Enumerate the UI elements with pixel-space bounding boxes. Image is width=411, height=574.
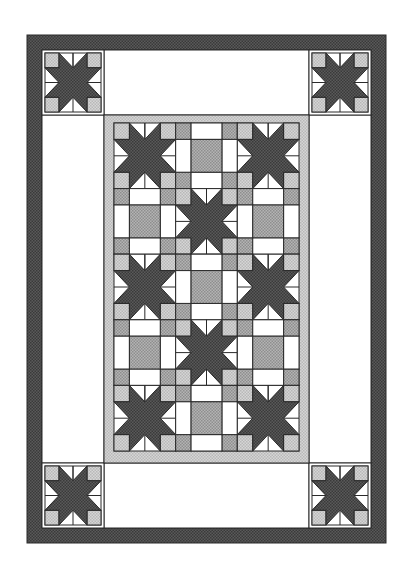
star-block (45, 466, 101, 525)
side-rect (191, 385, 222, 401)
star-block (45, 53, 101, 112)
side-rect (191, 303, 222, 319)
corner-square (176, 123, 191, 139)
corner-square (176, 172, 191, 188)
side-rect (129, 189, 160, 205)
side-rect (129, 320, 160, 336)
corner-square (284, 238, 299, 254)
side-rect (253, 189, 284, 205)
square-block (114, 320, 176, 386)
side-rect (191, 172, 222, 188)
square-block (114, 189, 176, 255)
corner-square (114, 369, 129, 385)
corner-square (312, 466, 326, 481)
star-block (312, 53, 368, 112)
star-block (176, 189, 238, 255)
side-rect (237, 336, 252, 369)
side-rect (129, 238, 160, 254)
side-rect (176, 271, 191, 304)
corner-square (176, 369, 191, 385)
square-block (176, 254, 238, 320)
corner-square (312, 510, 326, 525)
corner-square (160, 123, 175, 139)
corner-square (354, 97, 368, 112)
corner-square (222, 254, 237, 270)
side-rect (253, 238, 284, 254)
corner-square (237, 435, 252, 451)
corner-square (45, 466, 59, 481)
side-rect (284, 336, 299, 369)
side-rect (114, 336, 129, 369)
corner-square (237, 254, 252, 270)
corner-square (87, 53, 101, 68)
corner-block-bottom-right (309, 463, 371, 528)
corner-block-top-left (42, 50, 104, 115)
star-block (176, 320, 238, 386)
corner-square (114, 320, 129, 336)
corner-square (237, 238, 252, 254)
bottom-panel (104, 463, 309, 528)
corner-square (87, 466, 101, 481)
side-rect (284, 205, 299, 238)
side-rect (253, 369, 284, 385)
corner-square (114, 172, 129, 188)
corner-block-bottom-left (42, 463, 104, 528)
center-panel (104, 115, 309, 463)
side-rect (160, 336, 175, 369)
side-rect (160, 205, 175, 238)
center-square (253, 336, 284, 369)
corner-square (45, 510, 59, 525)
corner-square (160, 320, 175, 336)
corner-square (160, 385, 175, 401)
corner-square (87, 510, 101, 525)
corner-square (87, 97, 101, 112)
star-block (312, 466, 368, 525)
corner-square (45, 97, 59, 112)
square-block (176, 385, 238, 451)
corner-square (237, 369, 252, 385)
corner-square (284, 172, 299, 188)
side-rect (237, 205, 252, 238)
star-block (114, 385, 176, 451)
left-panel (42, 115, 104, 463)
side-rect (222, 139, 237, 172)
center-square (129, 205, 160, 238)
corner-square (114, 435, 129, 451)
corner-square (237, 303, 252, 319)
corner-square (222, 385, 237, 401)
square-block (237, 189, 299, 255)
corner-square (176, 189, 191, 205)
corner-square (160, 254, 175, 270)
quilt-diagram (0, 0, 411, 574)
corner-square (114, 189, 129, 205)
star-block (114, 123, 176, 189)
corner-square (114, 254, 129, 270)
side-rect (222, 271, 237, 304)
corner-square (354, 466, 368, 481)
corner-square (114, 303, 129, 319)
corner-square (222, 123, 237, 139)
center-square (191, 402, 222, 435)
side-rect (222, 402, 237, 435)
side-rect (191, 123, 222, 139)
corner-square (222, 189, 237, 205)
corner-square (222, 172, 237, 188)
corner-square (160, 435, 175, 451)
corner-square (284, 189, 299, 205)
corner-square (237, 172, 252, 188)
corner-square (176, 254, 191, 270)
corner-square (160, 189, 175, 205)
corner-square (160, 369, 175, 385)
corner-square (176, 303, 191, 319)
corner-square (312, 97, 326, 112)
center-square (191, 271, 222, 304)
corner-square (45, 53, 59, 68)
corner-block-top-right (309, 50, 371, 115)
square-block (176, 123, 238, 189)
corner-square (354, 510, 368, 525)
star-block (237, 254, 299, 320)
corner-square (284, 254, 299, 270)
corner-square (284, 320, 299, 336)
star-block (237, 385, 299, 451)
center-square (129, 336, 160, 369)
